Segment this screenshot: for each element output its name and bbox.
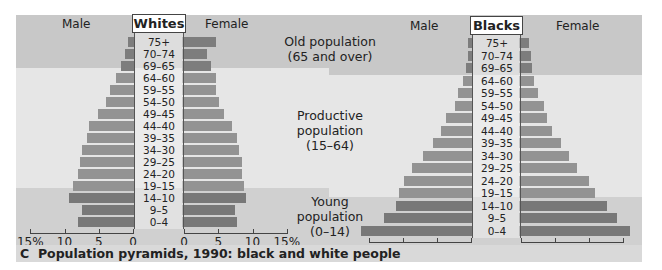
age-group-label: 9–5 bbox=[473, 212, 521, 224]
age-group-label: 29–25 bbox=[473, 162, 521, 174]
bar-male bbox=[399, 188, 473, 198]
age-group-label: 75+ bbox=[135, 36, 183, 48]
bar-female bbox=[519, 138, 561, 148]
group-line: (0–14) bbox=[270, 224, 390, 239]
bar-male bbox=[82, 205, 135, 215]
group-label-productive: Productive population (15–64) bbox=[270, 108, 390, 153]
female-label: Female bbox=[205, 17, 248, 31]
caption-letter: C bbox=[20, 246, 29, 261]
x-axis-male bbox=[30, 233, 133, 234]
age-group-label: 14–10 bbox=[135, 192, 183, 204]
bar-female bbox=[519, 201, 607, 211]
male-label: Male bbox=[410, 19, 438, 33]
bar-male bbox=[404, 176, 473, 186]
bar-female bbox=[182, 97, 219, 107]
female-label: Female bbox=[556, 19, 599, 33]
age-group-label: 54–50 bbox=[473, 100, 521, 112]
bar-female bbox=[182, 193, 246, 203]
bar-male bbox=[78, 169, 135, 179]
age-group-label: 39–35 bbox=[135, 132, 183, 144]
bar-female bbox=[519, 176, 589, 186]
bar-female bbox=[182, 217, 237, 227]
bar-male bbox=[87, 133, 135, 143]
bar-male bbox=[441, 126, 473, 136]
bar-male bbox=[69, 193, 135, 203]
age-group-label: 34–30 bbox=[473, 150, 521, 162]
bar-female bbox=[519, 226, 630, 236]
group-line: (65 and over) bbox=[270, 49, 390, 64]
bar-female bbox=[519, 88, 538, 98]
bar-female bbox=[182, 37, 216, 47]
bar-male bbox=[80, 157, 135, 167]
bar-female bbox=[519, 113, 547, 123]
bar-female bbox=[182, 61, 211, 71]
axis-tick bbox=[555, 238, 556, 243]
group-line: (15–64) bbox=[270, 138, 390, 153]
bar-male bbox=[396, 201, 473, 211]
group-line: population bbox=[270, 123, 390, 138]
axis-tick bbox=[437, 238, 438, 243]
bar-female bbox=[182, 205, 235, 215]
bar-male bbox=[82, 145, 135, 155]
age-group-label: 54–50 bbox=[135, 96, 183, 108]
figure-caption: C Population pyramids, 1990: black and w… bbox=[16, 245, 642, 262]
x-axis-female bbox=[521, 242, 623, 243]
axis-tick bbox=[30, 229, 31, 234]
bar-male bbox=[412, 163, 473, 173]
bar-male bbox=[106, 97, 135, 107]
age-group-label: 69–65 bbox=[473, 62, 521, 74]
male-label: Male bbox=[62, 17, 90, 31]
age-group-label: 9–5 bbox=[135, 204, 183, 216]
age-group-label: 19–15 bbox=[473, 187, 521, 199]
bar-female bbox=[519, 151, 569, 161]
age-group-label: 19–15 bbox=[135, 180, 183, 192]
axis-tick bbox=[521, 238, 522, 243]
axis-tick bbox=[623, 238, 624, 243]
pyramid-title: Blacks bbox=[470, 16, 523, 35]
bar-male bbox=[73, 181, 135, 191]
age-group-label: 34–30 bbox=[135, 144, 183, 156]
age-group-label: 44–40 bbox=[473, 125, 521, 137]
bar-female bbox=[182, 145, 239, 155]
pyramid-title: Whites bbox=[132, 14, 186, 33]
axis-tick bbox=[65, 229, 66, 234]
bar-female bbox=[519, 76, 534, 86]
bar-female bbox=[519, 101, 544, 111]
bar-male bbox=[458, 88, 473, 98]
bar-male bbox=[384, 213, 473, 223]
age-group-label: 64–60 bbox=[473, 75, 521, 87]
group-label-old: Old population (65 and over) bbox=[270, 34, 390, 64]
bar-female bbox=[182, 133, 237, 143]
age-group-label: 44–40 bbox=[135, 120, 183, 132]
group-line: Old population bbox=[270, 34, 390, 49]
bar-female bbox=[182, 121, 232, 131]
bar-male bbox=[446, 113, 473, 123]
age-group-label: 69–65 bbox=[135, 60, 183, 72]
bar-male bbox=[116, 73, 135, 83]
age-group-label: 70–74 bbox=[473, 50, 521, 62]
axis-tick bbox=[403, 238, 404, 243]
group-label-young: Young population (0–14) bbox=[270, 194, 390, 239]
bar-male bbox=[110, 85, 135, 95]
axis-tick bbox=[184, 229, 185, 234]
bar-male bbox=[455, 101, 473, 111]
axis-tick bbox=[99, 229, 100, 234]
bar-male bbox=[89, 121, 135, 131]
axis-tick bbox=[133, 229, 134, 234]
bar-female bbox=[519, 126, 552, 136]
bar-male bbox=[121, 61, 135, 71]
age-group-label: 64–60 bbox=[135, 72, 183, 84]
age-group-label: 59–55 bbox=[135, 84, 183, 96]
bar-female bbox=[519, 213, 617, 223]
bar-female bbox=[182, 157, 242, 167]
group-line: Young bbox=[270, 194, 390, 209]
axis-tick bbox=[589, 238, 590, 243]
group-line: population bbox=[270, 209, 390, 224]
age-group-label: 24–20 bbox=[135, 168, 183, 180]
age-group-label: 39–35 bbox=[473, 137, 521, 149]
age-group-label: 49–45 bbox=[135, 108, 183, 120]
caption-text: Population pyramids, 1990: black and whi… bbox=[38, 246, 401, 261]
age-group-label: 49–45 bbox=[473, 112, 521, 124]
bar-male bbox=[78, 217, 135, 227]
age-group-label: 24–20 bbox=[473, 175, 521, 187]
